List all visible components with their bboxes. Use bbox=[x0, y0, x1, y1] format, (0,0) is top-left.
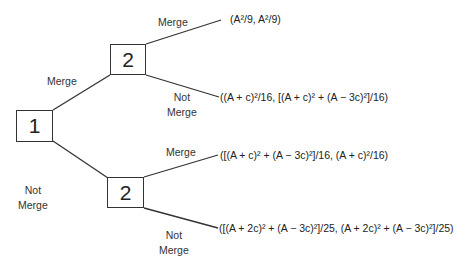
edge-label-1-merge: Merge bbox=[47, 74, 77, 89]
payoff-merge-merge: (A²/9, A²/9) bbox=[230, 13, 281, 25]
edge-label-2top-not-merge: Not Merge bbox=[167, 90, 197, 120]
node-player-1: 1 bbox=[16, 110, 53, 142]
node-player-2-top: 2 bbox=[110, 44, 146, 75]
edge-label-line: Merge bbox=[18, 198, 48, 213]
payoff-not-merge-merge: ([(A + c)² + (A − 3c)²]/16, (A + c)²/16) bbox=[220, 149, 388, 161]
node-player-2-bottom: 2 bbox=[107, 177, 144, 208]
edge-label-1-not-merge: Not Merge bbox=[18, 183, 48, 213]
edge-label-line: Not bbox=[159, 228, 189, 243]
node-player-2-bottom-label: 2 bbox=[120, 181, 132, 205]
edge-2bottom-not-merge bbox=[144, 208, 218, 228]
payoff-not-merge-not-merge: ([(A + 2c)² + (A − 3c)²]/25, (A + 2c)² +… bbox=[219, 222, 454, 234]
edge-label-2top-merge: Merge bbox=[158, 15, 188, 30]
edge-1-not-merge bbox=[53, 141, 108, 178]
node-player-1-label: 1 bbox=[29, 114, 41, 138]
edge-label-line: Not bbox=[167, 90, 197, 105]
edge-label-2bottom-merge: Merge bbox=[166, 145, 196, 160]
node-player-2-top-label: 2 bbox=[122, 48, 134, 72]
edge-label-line: Merge bbox=[167, 105, 197, 120]
payoff-merge-not-merge: ((A + c)²/16, [(A + c)² + (A − 3c)²]/16) bbox=[220, 91, 388, 103]
edge-label-line: Not bbox=[18, 183, 48, 198]
edge-label-line: Merge bbox=[159, 243, 189, 258]
edge-label-2bottom-not-merge: Not Merge bbox=[159, 228, 189, 258]
